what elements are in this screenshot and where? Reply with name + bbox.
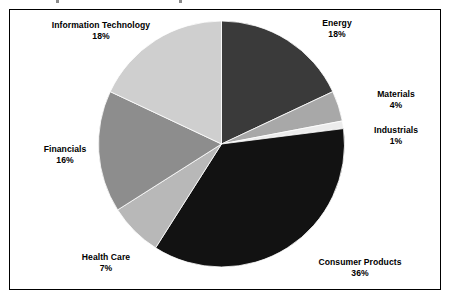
slice-label-value: 18% xyxy=(26,31,176,42)
slice-label-value: 1% xyxy=(348,136,444,147)
slice-label-name: Materials xyxy=(348,89,444,100)
slice-label-financials: Financials 16% xyxy=(16,144,114,167)
slice-label-value: 4% xyxy=(348,100,444,111)
slice-label-name: Health Care xyxy=(54,252,158,263)
slice-label-name: Financials xyxy=(16,144,114,155)
slice-label-name: Consumer Products xyxy=(290,257,430,268)
slice-label-consumer-products: Consumer Products 36% xyxy=(290,257,430,280)
pie-chart-figure: Information Technology 18% Energy 18% Ma… xyxy=(0,0,451,300)
slice-label-value: 16% xyxy=(16,155,114,166)
slice-label-energy: Energy 18% xyxy=(282,18,392,41)
slice-label-industrials: Industrials 1% xyxy=(348,125,444,148)
pie-slice-group xyxy=(99,21,345,267)
slice-label-name: Industrials xyxy=(348,125,444,136)
slice-label-value: 18% xyxy=(282,29,392,40)
slice-label-health-care: Health Care 7% xyxy=(54,252,158,275)
slice-label-value: 36% xyxy=(290,268,430,279)
slice-label-name: Energy xyxy=(282,18,392,29)
slice-label-materials: Materials 4% xyxy=(348,89,444,112)
slice-label-information-technology: Information Technology 18% xyxy=(26,20,176,43)
slice-label-name: Information Technology xyxy=(26,20,176,31)
slice-label-value: 7% xyxy=(54,263,158,274)
